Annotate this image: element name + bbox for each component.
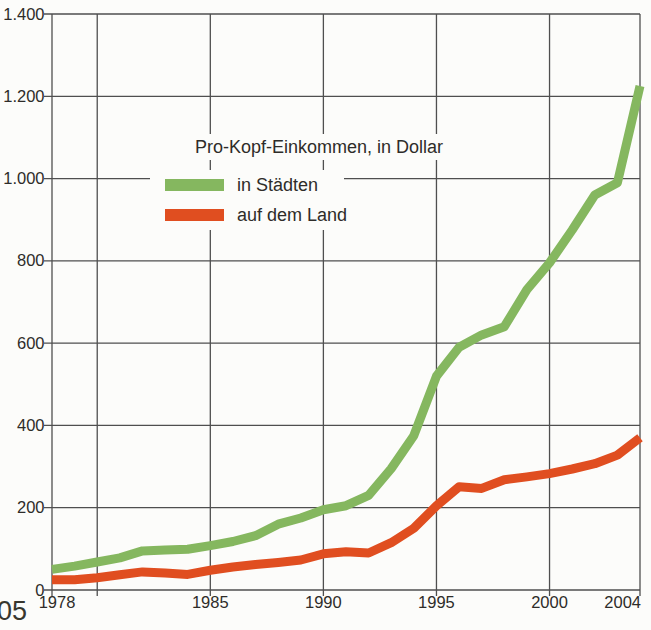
- rural-series-swatch-icon: [165, 209, 224, 221]
- legend-label-rural: auf dem Land: [237, 204, 347, 226]
- x-axis-label: 1990: [305, 593, 342, 611]
- page-number-cutoff: 05: [0, 596, 27, 627]
- x-axis-label: 1985: [192, 593, 229, 611]
- y-axis-label: 200: [17, 498, 45, 516]
- chart-legend: Pro-Kopf-Einkommen, in Dollar in Städten…: [150, 134, 451, 230]
- legend-rows: in Städten auf dem Land: [150, 170, 451, 230]
- income-line-chart: 02004006008001.0001.2001.400197819851990…: [0, 0, 651, 630]
- y-axis-label: 1.400: [3, 5, 44, 23]
- y-axis-label: 800: [17, 251, 45, 269]
- legend-item-rural: auf dem Land: [150, 200, 373, 230]
- x-axis-label: 2004: [604, 593, 641, 611]
- y-axis-label: 400: [17, 416, 45, 434]
- chart-title: Pro-Kopf-Einkommen, in Dollar: [187, 134, 451, 160]
- x-axis-label: 1978: [39, 593, 76, 611]
- y-axis-label: 1.000: [3, 169, 44, 187]
- urban-series-swatch-icon: [165, 179, 224, 191]
- chart-page: 02004006008001.0001.2001.400197819851990…: [0, 0, 651, 630]
- x-axis-label: 1995: [418, 593, 455, 611]
- legend-item-urban: in Städten: [150, 170, 344, 200]
- x-axis-label: 2000: [531, 593, 568, 611]
- y-axis-label: 1.200: [3, 87, 44, 105]
- y-axis-label: 600: [17, 334, 45, 352]
- legend-label-urban: in Städten: [237, 174, 318, 196]
